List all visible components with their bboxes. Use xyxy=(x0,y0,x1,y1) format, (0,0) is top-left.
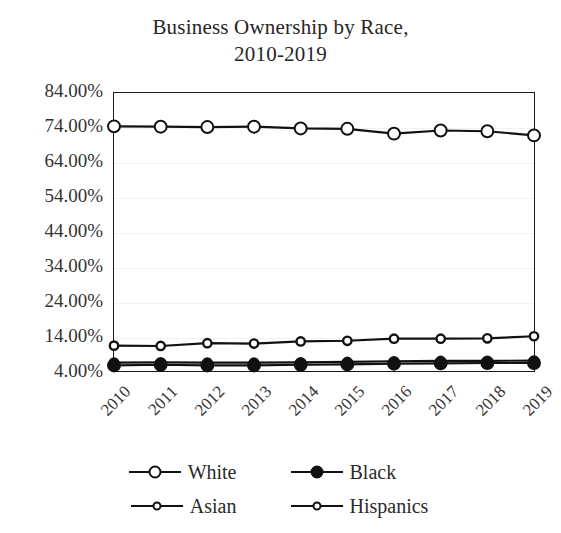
series-line xyxy=(114,126,534,135)
data-point xyxy=(343,337,351,345)
data-point xyxy=(108,120,120,132)
legend-item-asian[interactable]: Asian xyxy=(0,496,281,516)
data-point xyxy=(341,358,353,370)
legend-marker-white xyxy=(129,465,181,479)
series-layer xyxy=(114,93,534,371)
data-point xyxy=(528,129,540,141)
y-tick-label: 74.00% xyxy=(44,115,103,137)
plot-area xyxy=(113,92,535,372)
data-point xyxy=(250,339,258,347)
x-tick-label: 2017 xyxy=(412,382,463,433)
y-tick-label: 64.00% xyxy=(44,150,103,172)
data-point xyxy=(156,342,164,350)
y-tick-label: 84.00% xyxy=(44,80,103,102)
x-tick-label: 2013 xyxy=(225,382,276,433)
chart-legend: White Black Asian Hispanics xyxy=(0,462,561,516)
x-tick-label: 2012 xyxy=(178,382,229,433)
legend-label-hispanics: Hispanics xyxy=(350,496,429,516)
x-tick-label: 2019 xyxy=(506,382,557,433)
data-point xyxy=(341,123,353,135)
x-tick-label: 2016 xyxy=(366,382,417,433)
data-point xyxy=(390,335,398,343)
chart-title: Business Ownership by Race, 2010-2019 xyxy=(0,14,561,68)
data-point xyxy=(295,359,307,371)
data-point xyxy=(201,121,213,133)
data-point xyxy=(388,358,400,370)
data-point xyxy=(155,121,167,133)
data-point xyxy=(435,125,447,137)
data-point xyxy=(436,335,444,343)
x-tick-label: 2014 xyxy=(272,382,323,433)
y-tick-label: 14.00% xyxy=(44,325,103,347)
data-point xyxy=(295,122,307,134)
legend-label-black: Black xyxy=(350,462,397,482)
chart-title-line-1: Business Ownership by Race, xyxy=(0,14,561,41)
data-point xyxy=(481,125,493,137)
data-point xyxy=(108,359,120,371)
legend-label-white: White xyxy=(188,462,237,482)
legend-marker-asian xyxy=(131,499,183,513)
data-point xyxy=(530,332,538,340)
data-point xyxy=(155,359,167,371)
data-point xyxy=(388,128,400,140)
y-tick-label: 44.00% xyxy=(44,220,103,242)
series-asian xyxy=(110,332,538,350)
data-point xyxy=(248,359,260,371)
series-line xyxy=(114,336,534,346)
series-white xyxy=(108,120,540,141)
legend-item-black[interactable]: Black xyxy=(281,462,561,482)
data-point xyxy=(248,121,260,133)
legend-item-white[interactable]: White xyxy=(0,462,281,482)
series-black xyxy=(108,357,540,371)
data-point xyxy=(203,339,211,347)
x-tick-label: 2011 xyxy=(131,382,182,433)
data-point xyxy=(296,337,304,345)
x-tick-label: 2018 xyxy=(459,382,510,433)
legend-label-asian: Asian xyxy=(190,496,237,516)
data-point xyxy=(528,357,540,369)
y-tick-label: 54.00% xyxy=(44,185,103,207)
data-point xyxy=(435,357,447,369)
legend-marker-hispanics xyxy=(291,499,343,513)
x-tick-label: 2015 xyxy=(319,382,370,433)
y-tick-label: 34.00% xyxy=(44,255,103,277)
data-point xyxy=(483,334,491,342)
data-point xyxy=(110,341,118,349)
legend-marker-black xyxy=(291,465,343,479)
y-tick-label: 24.00% xyxy=(44,290,103,312)
data-point xyxy=(201,359,213,371)
y-tick-label: 4.00% xyxy=(54,360,103,382)
chart-container: Business Ownership by Race, 2010-2019 84… xyxy=(0,0,561,533)
x-tick-label: 2010 xyxy=(84,382,135,433)
data-point xyxy=(481,357,493,369)
chart-title-line-2: 2010-2019 xyxy=(0,41,561,68)
legend-item-hispanics[interactable]: Hispanics xyxy=(281,496,561,516)
